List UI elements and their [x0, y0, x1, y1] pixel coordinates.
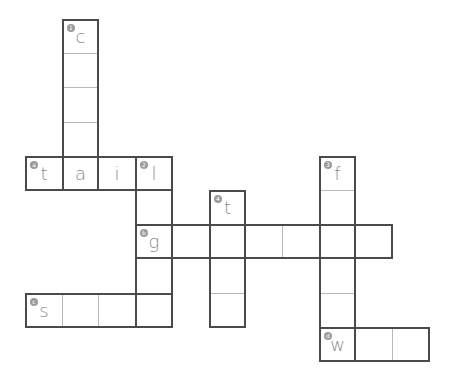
cell-letter: i	[99, 163, 135, 184]
crossword-cell[interactable]	[392, 327, 430, 362]
crossword-cell[interactable]	[245, 224, 283, 259]
crossword-cell[interactable]	[98, 293, 136, 328]
crossword-cell[interactable]	[172, 224, 210, 259]
crossword-cell[interactable]	[282, 224, 320, 259]
crossword-cell[interactable]	[209, 258, 246, 294]
crossword-cell[interactable]: dw	[319, 327, 356, 362]
cell-letter: c	[63, 26, 98, 47]
crossword-cell[interactable]: bg	[135, 224, 173, 259]
crossword-cell[interactable]: 4t	[209, 190, 246, 225]
crossword-cell[interactable]: 1c	[62, 19, 99, 54]
cell-letter: w	[320, 334, 355, 355]
crossword-cell[interactable]: i	[98, 156, 136, 191]
cell-letter: g	[136, 231, 172, 252]
crossword-cell[interactable]	[319, 224, 356, 259]
crossword-cell[interactable]	[62, 53, 99, 88]
cell-letter: f	[320, 163, 355, 184]
crossword-cell[interactable]	[135, 190, 173, 225]
crossword-cell[interactable]: 2l	[135, 156, 173, 191]
crossword-cell[interactable]	[319, 293, 356, 328]
cell-letter: t	[26, 163, 62, 184]
crossword-cell[interactable]	[209, 293, 246, 328]
crossword-cell[interactable]	[319, 190, 356, 225]
cell-letter: l	[136, 163, 172, 184]
crossword-cell[interactable]	[319, 258, 356, 294]
crossword-cell[interactable]: cs	[25, 293, 63, 328]
crossword-cell[interactable]	[355, 224, 393, 259]
crossword-cell[interactable]	[62, 293, 99, 328]
crossword-cell[interactable]	[135, 293, 173, 328]
crossword-cell[interactable]	[355, 327, 393, 362]
cell-letter: s	[26, 300, 62, 321]
crossword-cell[interactable]: 3f	[319, 156, 356, 191]
crossword-cell[interactable]	[135, 258, 173, 294]
cell-letter: t	[210, 197, 245, 218]
crossword-cell[interactable]	[62, 87, 99, 123]
crossword-cell[interactable]: a	[62, 156, 99, 191]
cell-letter: a	[63, 163, 98, 184]
crossword-cell[interactable]	[62, 122, 99, 157]
crossword-cell[interactable]	[209, 224, 246, 259]
crossword-grid: 1caati2lbg3fdw4tcs	[0, 0, 455, 384]
crossword-cell[interactable]: at	[25, 156, 63, 191]
